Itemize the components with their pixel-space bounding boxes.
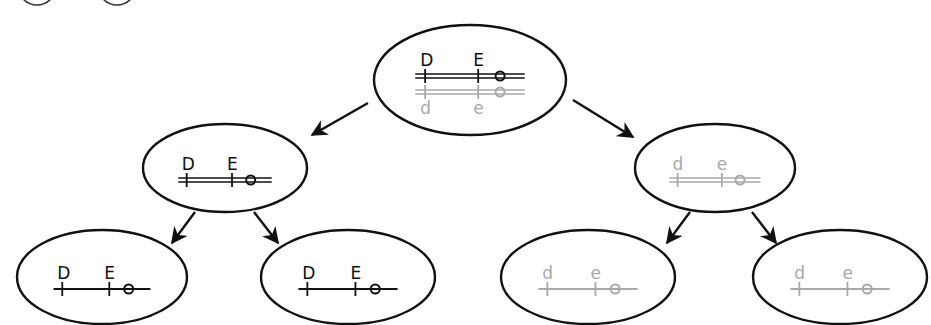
node-left: DE xyxy=(143,124,307,212)
node-ellipse xyxy=(635,124,795,212)
arrow-right-to-rl xyxy=(667,212,690,243)
locus-label: E xyxy=(227,154,238,174)
node-ellipse xyxy=(501,230,675,324)
node-lr: DE xyxy=(261,230,435,324)
locus-label: e xyxy=(717,154,727,174)
locus-label: D xyxy=(302,263,315,283)
arrow-root-to-right xyxy=(573,100,633,137)
locus-label: d xyxy=(673,154,684,174)
node-ellipse xyxy=(261,230,435,324)
locus-label: e xyxy=(473,98,483,118)
node-ellipse xyxy=(17,230,187,324)
node-ll: DE xyxy=(17,230,187,324)
inheritance-tree-diagram: DEdeDEdeDEDEdede xyxy=(0,0,931,325)
locus-label: d xyxy=(420,98,431,118)
locus-label: D xyxy=(420,50,433,70)
locus-label: D xyxy=(57,263,70,283)
node-ellipse xyxy=(753,230,927,324)
node-ellipse xyxy=(374,25,566,135)
locus-label: e xyxy=(590,263,600,283)
node-root: DEde xyxy=(374,25,566,135)
corner-circle-0 xyxy=(18,0,56,5)
locus-label: E xyxy=(350,263,361,283)
node-rr: de xyxy=(753,230,927,324)
node-rl: de xyxy=(501,230,675,324)
arrow-left-to-lr xyxy=(254,212,278,243)
locus-label: E xyxy=(104,263,115,283)
locus-label: d xyxy=(794,263,805,283)
arrow-root-to-left xyxy=(312,103,368,135)
node-ellipse xyxy=(143,124,307,212)
locus-label: D xyxy=(182,154,195,174)
arrow-left-to-ll xyxy=(172,212,195,243)
corner-circles xyxy=(18,0,136,5)
nodes: DEdeDEdeDEDEdede xyxy=(17,25,927,324)
corner-circle-1 xyxy=(98,0,136,5)
locus-label: d xyxy=(542,263,553,283)
locus-label: e xyxy=(842,263,852,283)
arrow-right-to-rr xyxy=(752,212,776,243)
locus-label: E xyxy=(473,50,484,70)
node-right: de xyxy=(635,124,795,212)
